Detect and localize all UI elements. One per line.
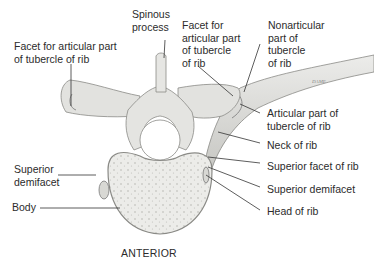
label-body: Body xyxy=(12,201,36,214)
label-neck-of-rib: Neck of rib xyxy=(267,139,317,152)
label-superior-facet-of-rib: Superior facet of rib xyxy=(267,160,359,173)
label-head-of-rib: Head of rib xyxy=(267,205,318,218)
label-superior-demifacet-right: Superior demifacet xyxy=(267,183,355,196)
label-facet-articular-left: Facet for articular part of tubercle of … xyxy=(14,40,117,65)
artist-signature: DAME xyxy=(311,79,326,84)
label-spinous-process: Spinous process xyxy=(132,8,170,33)
vertebral-body xyxy=(108,153,212,234)
left-superior-demifacet xyxy=(99,181,109,199)
label-nonarticular-part: Nonarticular part of tubercle of rib xyxy=(268,19,325,69)
orientation-label-anterior: ANTERIOR xyxy=(121,247,177,259)
vertebra-diagram: DAME xyxy=(0,0,374,270)
label-facet-articular-right: Facet for articular part of tubercle of … xyxy=(182,19,240,69)
label-articular-part: Articular part of tubercle of rib xyxy=(267,107,338,132)
label-superior-demifacet-left: Superior demifacet xyxy=(14,163,60,188)
vertebral-foramen xyxy=(140,120,180,160)
spinous-process-shape xyxy=(156,53,166,92)
